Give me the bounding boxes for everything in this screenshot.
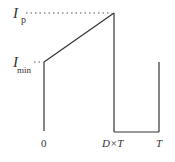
x-label-t: T: [156, 137, 163, 149]
waveform-diagram: I p I min 0 D×T T: [0, 0, 175, 162]
ip-label: I: [12, 5, 19, 21]
ip-subscript: p: [21, 14, 26, 25]
imin-subscript: min: [17, 65, 32, 75]
x-label-zero: 0: [41, 137, 47, 149]
ramp-line: [44, 13, 114, 62]
x-label-dt: D×T: [101, 137, 124, 149]
